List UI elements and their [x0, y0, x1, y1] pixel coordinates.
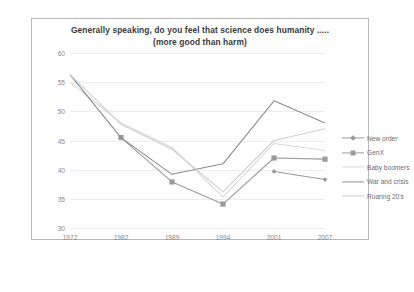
- y-axis-tick-label: 55: [58, 79, 65, 86]
- legend-swatch: [342, 133, 364, 143]
- legend-label: GenX: [367, 149, 384, 156]
- legend-label: War and crisis: [367, 178, 409, 185]
- legend-label: New order: [367, 135, 397, 142]
- series-line: [70, 75, 325, 192]
- legend-swatch: [342, 177, 364, 187]
- legend-swatch: [342, 148, 364, 158]
- series-marker: [220, 201, 225, 206]
- x-axis-tick-label: 1994: [216, 234, 231, 241]
- chart-title-line-1: Generally speaking, do you feel that sci…: [32, 25, 368, 37]
- legend-swatch: [342, 162, 364, 172]
- series-line: [70, 82, 325, 197]
- legend-item[interactable]: War and crisis: [342, 175, 414, 190]
- x-axis-tick-label: 1989: [165, 234, 180, 241]
- gridline: [70, 228, 325, 229]
- y-axis-tick-label: 45: [58, 137, 65, 144]
- chart-legend: New orderGenXBaby boomersWar and crisisR…: [342, 131, 414, 204]
- series-line: [274, 171, 325, 179]
- legend-item[interactable]: Baby boomers: [342, 160, 414, 175]
- chart-title-line-2: (more good than harm): [32, 37, 368, 49]
- legend-item[interactable]: Roaring 20's: [342, 189, 414, 204]
- series-lines: [70, 53, 325, 228]
- legend-swatch: [342, 191, 364, 201]
- legend-item[interactable]: New order: [342, 131, 414, 146]
- series-line: [121, 138, 325, 205]
- y-axis-tick-label: 30: [58, 225, 65, 232]
- series-marker: [323, 177, 328, 182]
- series-marker: [272, 169, 277, 174]
- legend-item[interactable]: GenX: [342, 146, 414, 161]
- x-axis-tick-label: 2001: [267, 234, 282, 241]
- series-line: [70, 75, 325, 175]
- plot-area: 30354045505560 197219821989199420012007: [70, 53, 325, 228]
- series-marker: [271, 155, 276, 160]
- series-marker: [322, 157, 327, 162]
- y-axis-tick-label: 35: [58, 195, 65, 202]
- legend-label: Baby boomers: [367, 164, 410, 171]
- chart-container: Generally speaking, do you feel that sci…: [31, 18, 369, 240]
- y-axis-tick-label: 50: [58, 108, 65, 115]
- x-axis-tick-label: 1982: [114, 234, 129, 241]
- y-axis-tick-label: 40: [58, 166, 65, 173]
- legend-label: Roaring 20's: [367, 193, 404, 200]
- x-axis-tick-label: 1972: [63, 234, 78, 241]
- series-marker: [169, 179, 174, 184]
- chart-title: Generally speaking, do you feel that sci…: [32, 25, 368, 48]
- y-axis-tick-label: 60: [58, 50, 65, 57]
- x-axis-tick-label: 2007: [318, 234, 333, 241]
